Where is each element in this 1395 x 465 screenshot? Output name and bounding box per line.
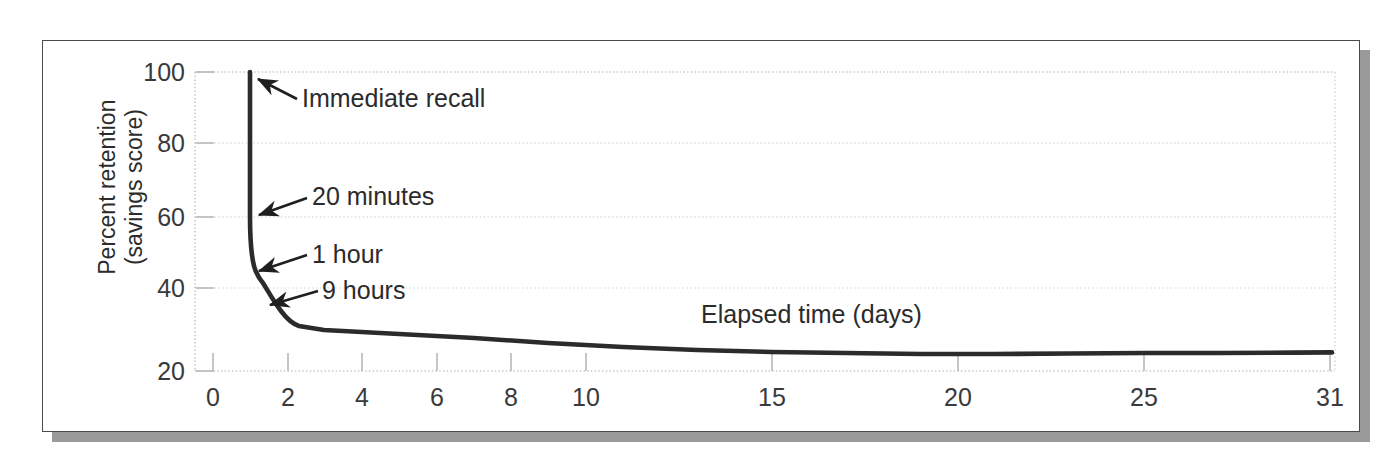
- arrow-1-hour: [259, 255, 307, 271]
- figure-root: Percent retention (savings score) 100 80…: [0, 0, 1395, 465]
- annotation-label-immediate-recall: Immediate recall: [302, 84, 485, 113]
- arrow-20-minutes: [259, 198, 307, 215]
- y-axis-ticks: [196, 72, 214, 371]
- arrow-9-hours: [270, 291, 318, 305]
- x-axis-title: Elapsed time (days): [701, 300, 922, 329]
- annotation-label-1-hour: 1 hour: [312, 240, 383, 269]
- x-axis-ticks: [213, 353, 1330, 371]
- annotation-label-20-minutes: 20 minutes: [312, 182, 434, 211]
- annotation-label-9-hours: 9 hours: [322, 276, 405, 305]
- arrow-immediate-recall: [258, 79, 297, 99]
- plot-canvas: [0, 0, 1395, 465]
